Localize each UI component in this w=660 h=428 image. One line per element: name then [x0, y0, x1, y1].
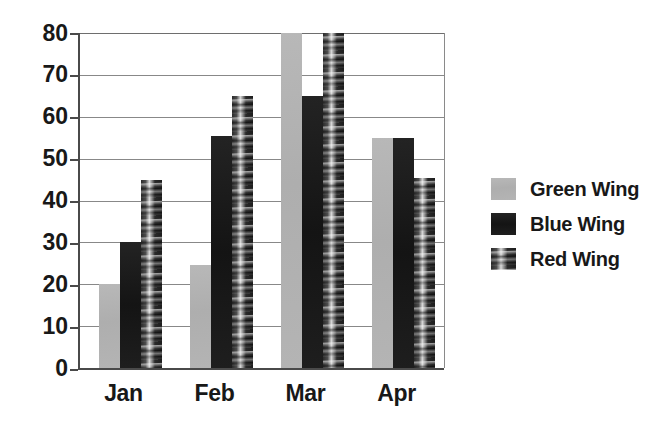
blue-wing-swatch-icon: [491, 213, 516, 235]
bar-group-mar: [262, 33, 353, 368]
x-tick-label-mar: Mar: [260, 382, 351, 405]
x-tick-label-jan: Jan: [78, 382, 169, 405]
bar-jan-green-wing: [99, 284, 120, 368]
bar-group-feb: [171, 33, 262, 368]
bar-group-apr: [353, 33, 444, 368]
y-tick-label-30: 30: [14, 231, 68, 254]
x-tick-label-apr: Apr: [351, 382, 442, 405]
y-tick-label-60: 60: [14, 105, 68, 128]
bar-group-jan: [80, 33, 171, 368]
bar-jan-red-wing: [141, 180, 162, 368]
y-tick-label-0: 0: [14, 357, 68, 380]
red-wing-swatch-icon: [491, 248, 516, 270]
y-tick-mark-30: [70, 243, 78, 245]
y-tick-mark-20: [70, 285, 78, 287]
bar-chart: 80 70 60 50 40 30 20 10 0: [0, 0, 660, 428]
bar-mar-green-wing: [281, 33, 302, 368]
chart-legend: Green Wing Blue Wing Red Wing: [491, 173, 639, 278]
bar-apr-red-wing: [414, 178, 435, 369]
y-tick-mark-80: [70, 33, 78, 35]
bar-feb-blue-wing: [211, 136, 232, 369]
bar-jan-blue-wing: [120, 242, 141, 368]
y-tick-label-50: 50: [14, 147, 68, 170]
y-tick-label-80: 80: [14, 22, 68, 45]
y-tick-mark-50: [70, 159, 78, 161]
legend-item-blue-wing: Blue Wing: [491, 208, 639, 239]
y-tick-label-10: 10: [14, 315, 68, 338]
legend-label-green-wing: Green Wing: [530, 179, 639, 199]
y-tick-mark-10: [70, 327, 78, 329]
legend-item-red-wing: Red Wing: [491, 243, 639, 274]
y-tick-mark-70: [70, 75, 78, 77]
bar-apr-green-wing: [372, 138, 393, 368]
plot-right-border: [444, 33, 445, 368]
x-tick-label-feb: Feb: [169, 382, 260, 405]
y-tick-label-20: 20: [14, 273, 68, 296]
plot-area: [78, 33, 444, 370]
bar-apr-blue-wing: [393, 138, 414, 368]
y-tick-label-70: 70: [14, 63, 68, 86]
bar-feb-red-wing: [232, 96, 253, 368]
y-tick-mark-40: [70, 201, 78, 203]
bar-mar-blue-wing: [302, 96, 323, 368]
green-wing-swatch-icon: [491, 178, 516, 200]
legend-label-red-wing: Red Wing: [530, 249, 620, 269]
y-tick-mark-60: [70, 117, 78, 119]
bar-mar-red-wing: [323, 33, 344, 368]
legend-item-green-wing: Green Wing: [491, 173, 639, 204]
legend-label-blue-wing: Blue Wing: [530, 214, 625, 234]
bar-feb-green-wing: [190, 265, 211, 368]
y-tick-mark-0: [70, 369, 78, 371]
y-tick-label-40: 40: [14, 189, 68, 212]
